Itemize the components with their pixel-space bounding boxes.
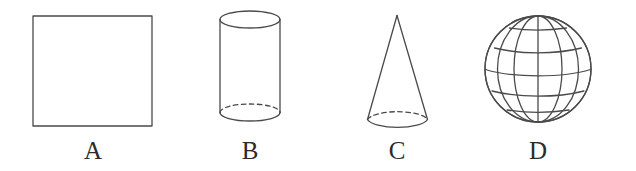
- figure-label-d: D: [508, 138, 568, 163]
- figure-panel: A B C D: [0, 0, 636, 171]
- shape-sphere-d: [485, 16, 591, 122]
- shape-square-a: [33, 16, 152, 126]
- shape-cone-c: [368, 16, 428, 128]
- shape-cylinder-b: [220, 11, 280, 121]
- figure-label-b: B: [220, 138, 280, 163]
- figure-label-a: A: [63, 138, 123, 163]
- figure-label-c: C: [367, 138, 427, 163]
